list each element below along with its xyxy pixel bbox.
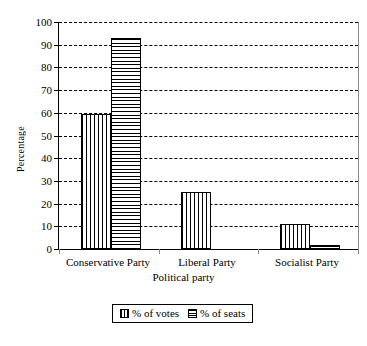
y-tick-label: 0 xyxy=(26,244,52,255)
legend-label-seats: % of seats xyxy=(200,307,245,319)
y-tick-label: 100 xyxy=(26,17,52,28)
y-tick-label: 10 xyxy=(26,221,52,232)
y-tick-mark xyxy=(54,181,59,182)
x-tick-mark xyxy=(159,249,160,254)
y-tick-mark xyxy=(54,226,59,227)
chart-legend: % of votes % of seats xyxy=(112,304,253,323)
bar-socialist-seats xyxy=(310,245,340,249)
y-tick-label: 30 xyxy=(26,176,52,187)
legend-label-votes: % of votes xyxy=(132,307,179,319)
legend-swatch-votes-icon xyxy=(120,309,129,318)
y-tick-mark xyxy=(54,136,59,137)
y-tick-mark xyxy=(54,45,59,46)
gridline-100 xyxy=(59,22,358,23)
gridline-70 xyxy=(59,90,358,91)
bar-liberal-votes xyxy=(181,192,211,249)
bar-chart-figure: Percentage 100 90 80 70 60 50 40 30 20 1… xyxy=(0,0,367,346)
bar-conservative-seats xyxy=(111,38,141,249)
y-tick-label: 20 xyxy=(26,199,52,210)
plot-area xyxy=(58,22,358,250)
plot-right-spine xyxy=(358,22,359,249)
x-tick-mark xyxy=(258,249,259,254)
y-tick-label: 40 xyxy=(26,153,52,164)
x-tick-mark xyxy=(59,249,60,254)
y-tick-label: 60 xyxy=(26,108,52,119)
legend-entry-seats: % of seats xyxy=(188,307,245,319)
y-tick-mark xyxy=(54,90,59,91)
y-tick-label: 50 xyxy=(26,131,52,142)
y-tick-label: 90 xyxy=(26,40,52,51)
legend-swatch-seats-icon xyxy=(188,309,197,318)
legend-entry-votes: % of votes xyxy=(120,307,179,319)
x-axis-title: Political party xyxy=(0,271,367,283)
bar-socialist-votes xyxy=(280,224,310,249)
gridline-80 xyxy=(59,67,358,68)
y-tick-label: 80 xyxy=(26,62,52,73)
y-tick-label: 70 xyxy=(26,85,52,96)
y-tick-mark xyxy=(54,204,59,205)
y-tick-mark xyxy=(54,67,59,68)
bar-conservative-votes xyxy=(81,114,111,249)
y-tick-mark xyxy=(54,158,59,159)
y-tick-mark xyxy=(54,22,59,23)
x-tick-label-socialist: Socialist Party xyxy=(227,256,367,268)
y-tick-mark xyxy=(54,113,59,114)
x-tick-mark xyxy=(358,249,359,254)
gridline-90 xyxy=(59,45,358,46)
